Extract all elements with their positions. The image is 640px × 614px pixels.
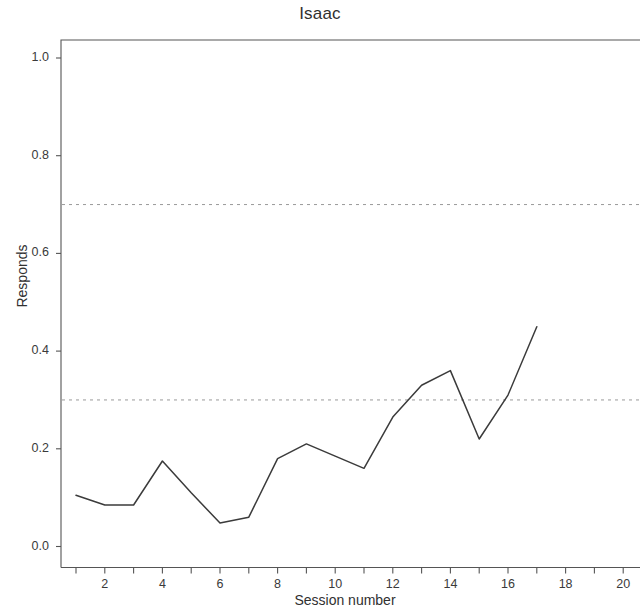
y-tick-label: 0.6 — [9, 245, 49, 259]
plot-frame — [61, 40, 640, 568]
chart-figure: Isaac Responds Session number 0.00.20.40… — [0, 0, 640, 614]
data-series-responds — [76, 327, 537, 523]
x-tick-label: 12 — [378, 577, 408, 591]
x-tick-label: 8 — [263, 577, 293, 591]
plot-area — [0, 0, 640, 614]
y-tick-label: 0.2 — [9, 441, 49, 455]
x-tick-label: 10 — [320, 577, 350, 591]
x-tick-label: 14 — [435, 577, 465, 591]
x-tick-label: 16 — [493, 577, 523, 591]
y-tick-label: 0.0 — [9, 539, 49, 553]
x-tick-label: 20 — [608, 577, 638, 591]
y-tick-label: 0.4 — [9, 343, 49, 357]
x-tick-label: 6 — [205, 577, 235, 591]
x-tick-label: 18 — [551, 577, 581, 591]
x-tick-label: 4 — [147, 577, 177, 591]
y-tick-label: 1.0 — [9, 50, 49, 64]
y-tick-label: 0.8 — [9, 148, 49, 162]
x-tick-label: 2 — [90, 577, 120, 591]
